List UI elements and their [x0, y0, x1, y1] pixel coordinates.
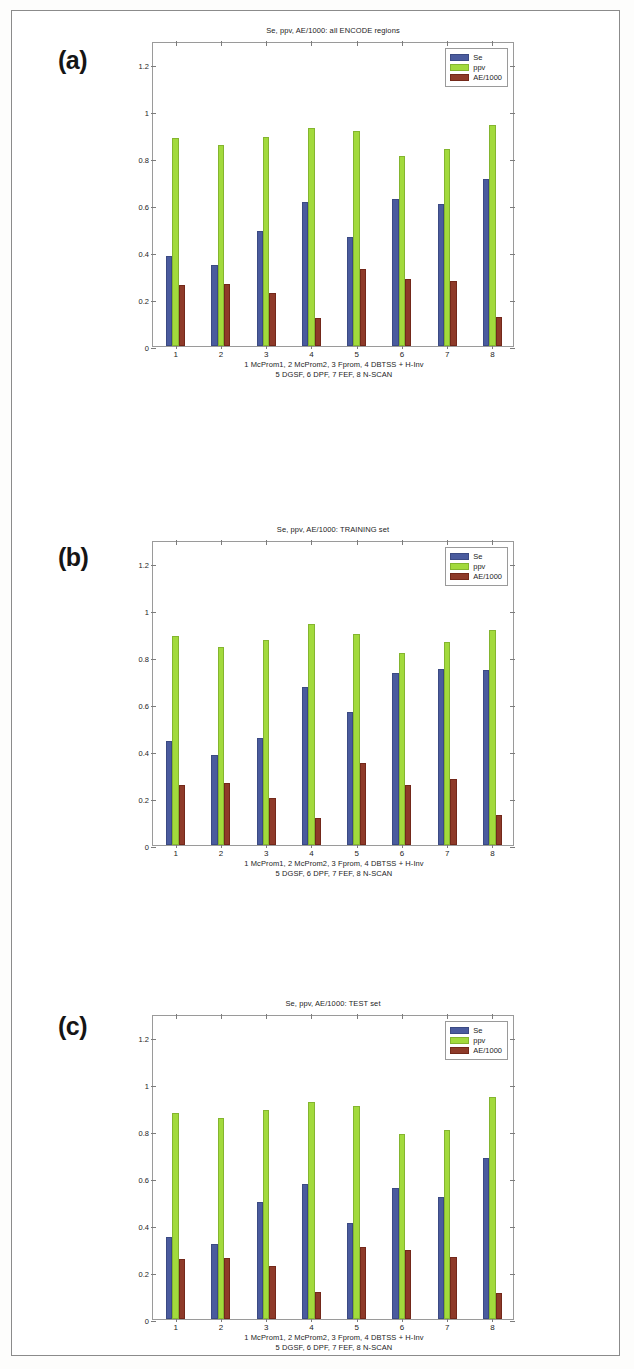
legend-label: Se: [473, 54, 482, 62]
x-axis-tick-top: [402, 1014, 403, 1019]
legend-label: AE/1000: [473, 1047, 502, 1055]
bar-ae-3: [269, 293, 275, 346]
y-axis-label: 0.8: [139, 655, 149, 664]
chart-area: Se, ppv, AE/1000: all ENCODE regions00.2…: [152, 42, 514, 347]
y-axis-tick: [151, 1133, 156, 1134]
x-axis-label: 8: [490, 849, 494, 858]
y-axis-tick: [151, 565, 156, 566]
x-axis-tick-top: [266, 41, 267, 46]
x-axis-label: 6: [400, 350, 404, 359]
bar-ppv-8: [489, 1097, 495, 1319]
legend-entry: Se: [450, 53, 502, 62]
x-axis-tick-top: [492, 540, 493, 545]
x-axis-label: 2: [219, 849, 223, 858]
x-axis-tick-top: [492, 41, 493, 46]
x-axis-caption-line1: 1 McProm1, 2 McProm2, 3 Fprom, 4 DBTSS +…: [153, 1333, 515, 1343]
legend-entry: AE/1000: [450, 73, 502, 82]
legend-swatch-icon: [450, 74, 469, 82]
y-axis-label: 1.2: [139, 561, 149, 570]
y-axis-tick: [151, 753, 156, 754]
bar-ae-2: [224, 1258, 230, 1319]
y-axis-label: 0: [145, 1317, 149, 1326]
legend-label: AE/1000: [473, 573, 502, 581]
x-axis-label: 6: [400, 1323, 404, 1332]
bar-ae-1: [179, 785, 185, 845]
y-axis-tick-right: [510, 254, 515, 255]
bar-ae-7: [450, 1257, 456, 1319]
y-axis-tick-right: [510, 113, 515, 114]
y-axis-label: 0.6: [139, 1176, 149, 1185]
y-axis-tick: [151, 612, 156, 613]
x-axis-label: 8: [490, 350, 494, 359]
x-axis-caption-line1: 1 McProm1, 2 McProm2, 3 Fprom, 4 DBTSS +…: [153, 360, 515, 370]
x-axis-tick-top: [357, 41, 358, 46]
legend-label: ppv: [473, 64, 485, 72]
y-axis-label: 1.2: [139, 1035, 149, 1044]
legend-swatch-icon: [450, 1037, 469, 1045]
x-axis-label: 6: [400, 849, 404, 858]
y-axis-label: 0: [145, 843, 149, 852]
bar-ae-3: [269, 798, 275, 845]
x-axis-tick-top: [311, 1014, 312, 1019]
y-axis-tick: [151, 1321, 156, 1322]
chart-legend: SeppvAE/1000: [445, 48, 508, 87]
legend-swatch-icon: [450, 1027, 469, 1035]
legend-label: AE/1000: [473, 74, 502, 82]
chart-legend: SeppvAE/1000: [445, 1021, 508, 1060]
y-axis-tick-right: [510, 1039, 515, 1040]
chart-title: Se, ppv, AE/1000: all ENCODE regions: [152, 26, 514, 35]
legend-swatch-icon: [450, 54, 469, 62]
x-axis-label: 3: [264, 350, 268, 359]
y-axis-label: 0.8: [139, 1129, 149, 1138]
y-axis-tick-right: [510, 800, 515, 801]
bar-ae-8: [496, 317, 502, 346]
legend-entry: Se: [450, 552, 502, 561]
scanned-page: (a)Se, ppv, AE/1000: all ENCODE regions0…: [0, 0, 634, 1369]
x-axis-label: 3: [264, 1323, 268, 1332]
x-axis-tick-top: [357, 1014, 358, 1019]
x-axis-tick-top: [447, 41, 448, 46]
legend-swatch-icon: [450, 573, 469, 581]
bar-ae-4: [315, 818, 321, 845]
legend-swatch-icon: [450, 563, 469, 571]
x-axis-label: 5: [354, 849, 358, 858]
bar-ppv-4: [308, 624, 314, 845]
y-axis-tick: [151, 800, 156, 801]
x-axis-tick-top: [176, 41, 177, 46]
y-axis-tick: [151, 847, 156, 848]
y-axis-label: 0.6: [139, 203, 149, 212]
y-axis-label: 1: [145, 1082, 149, 1091]
legend-entry: ppv: [450, 63, 502, 72]
x-axis-tick-top: [221, 41, 222, 46]
x-axis-tick-top: [402, 41, 403, 46]
bar-ae-2: [224, 284, 230, 346]
x-axis-tick-top: [447, 1014, 448, 1019]
x-axis-tick-top: [402, 540, 403, 545]
x-axis-label: 1: [173, 350, 177, 359]
y-axis-tick-right: [510, 847, 515, 848]
legend-entry: AE/1000: [450, 572, 502, 581]
x-axis-label: 5: [354, 350, 358, 359]
y-axis-tick: [151, 1086, 156, 1087]
x-axis-tick-top: [311, 41, 312, 46]
x-axis-label: 3: [264, 849, 268, 858]
x-axis-caption: 1 McProm1, 2 McProm2, 3 Fprom, 4 DBTSS +…: [153, 859, 515, 879]
x-axis-tick-top: [357, 540, 358, 545]
panel-label: (a): [58, 46, 138, 75]
chart-title: Se, ppv, AE/1000: TEST set: [152, 999, 514, 1008]
x-axis-label: 7: [445, 350, 449, 359]
x-axis-label: 7: [445, 849, 449, 858]
chart-title: Se, ppv, AE/1000: TRAINING set: [152, 525, 514, 534]
y-axis-label: 1: [145, 608, 149, 617]
chart-area: Se, ppv, AE/1000: TEST set00.20.40.60.81…: [152, 1015, 514, 1320]
bar-ae-1: [179, 285, 185, 346]
chart-legend: SeppvAE/1000: [445, 547, 508, 586]
x-axis-tick-top: [266, 1014, 267, 1019]
y-axis-label: 0.2: [139, 297, 149, 306]
y-axis-tick-right: [510, 1321, 515, 1322]
bar-ae-8: [496, 815, 502, 846]
y-axis-label: 0.4: [139, 1223, 149, 1232]
x-axis-label: 8: [490, 1323, 494, 1332]
y-axis-label: 1.2: [139, 62, 149, 71]
x-axis-tick-top: [221, 1014, 222, 1019]
